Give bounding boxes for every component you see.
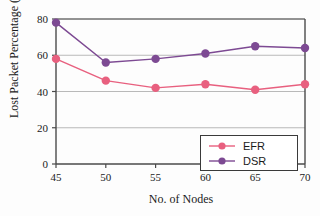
- data-point-dsr-45: [52, 18, 60, 26]
- data-point-efr-65: [251, 85, 259, 93]
- chart-legend: EFR DSR: [200, 135, 298, 171]
- data-point-efr-45: [52, 55, 60, 63]
- legend-marker-dsr: [207, 155, 237, 167]
- data-point-dsr-50: [102, 58, 110, 66]
- data-point-efr-50: [102, 76, 110, 84]
- series-line-dsr: [56, 23, 305, 63]
- legend-marker-efr: [207, 140, 237, 152]
- data-point-dsr-60: [201, 49, 209, 57]
- series-line-efr: [56, 59, 305, 90]
- data-point-efr-70: [301, 80, 309, 88]
- data-point-efr-60: [201, 80, 209, 88]
- legend-item-dsr: DSR: [207, 153, 266, 168]
- x-axis-title: No. of Nodes: [56, 192, 306, 207]
- chart-figure: Lost Packet Percentage (%) 020406080 455…: [0, 0, 320, 216]
- legend-label-efr: EFR: [243, 140, 265, 152]
- data-point-efr-55: [151, 84, 159, 92]
- legend-label-dsr: DSR: [243, 155, 266, 167]
- data-point-dsr-55: [151, 55, 159, 63]
- data-point-dsr-65: [251, 42, 259, 50]
- data-point-dsr-70: [301, 44, 309, 52]
- legend-item-efr: EFR: [207, 138, 265, 153]
- plot-area: [0, 0, 320, 216]
